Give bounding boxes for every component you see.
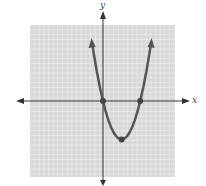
x-axis-right-arrow-icon xyxy=(182,98,190,104)
x-axis-left-arrow-icon xyxy=(16,98,24,104)
x-axis-label: x xyxy=(192,95,197,105)
parabola-chart xyxy=(0,0,206,186)
y-axis-label: y xyxy=(100,0,105,10)
y-axis-down-arrow-icon xyxy=(100,180,106,186)
y-axis-up-arrow-icon xyxy=(100,11,106,19)
point-x-intercept xyxy=(100,98,106,104)
point-vertex xyxy=(119,136,125,142)
point-x-intercept xyxy=(137,98,143,104)
